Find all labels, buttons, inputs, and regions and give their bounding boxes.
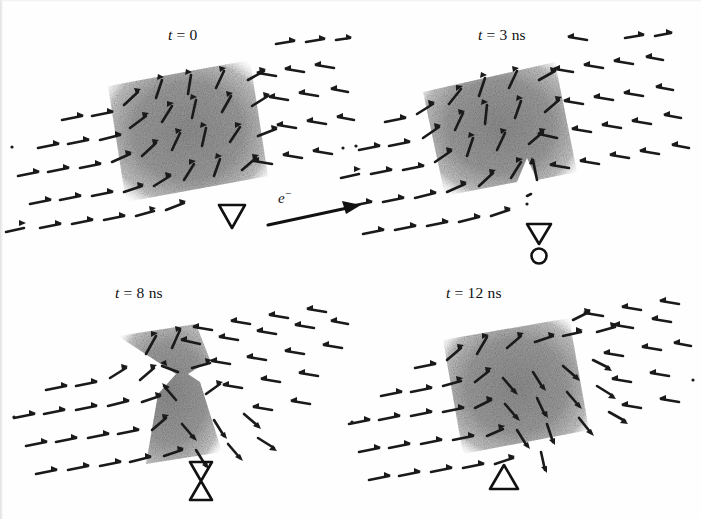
symbol-up-triangle-t12 (486, 460, 522, 494)
symbol-hourglass-t8 (186, 458, 216, 504)
figure-canvas: t = 0 (0, 0, 701, 519)
vector-field-t8 (0, 262, 360, 519)
time-label-t3: t = 3 ns (478, 26, 526, 44)
time-label-t0: t = 0 (168, 26, 198, 44)
panel-t8: t = 8 ns (0, 262, 360, 519)
symbol-down-triangle-t0 (215, 200, 249, 232)
electron-flow-arrow (266, 198, 372, 230)
time-label-t12: t = 12 ns (446, 284, 502, 302)
panel-t3: t = 3 ns (341, 0, 701, 280)
panel-t12: t = 12 ns (341, 262, 701, 519)
time-label-t8: t = 8 ns (115, 284, 163, 302)
